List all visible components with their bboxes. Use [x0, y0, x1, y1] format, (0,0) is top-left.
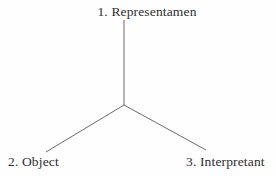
triad-diagram: 1. Representamen 2. Object 3. Interpreta…: [0, 0, 276, 176]
edge-center-to-object: [46, 105, 124, 152]
edge-center-to-interpretant: [124, 105, 206, 150]
node-label-representamen: 1. Representamen: [0, 5, 276, 19]
triad-lines-svg: [0, 0, 276, 176]
node-label-object: 2. Object: [8, 155, 59, 169]
node-label-interpretant: 3. Interpretant: [186, 155, 265, 169]
